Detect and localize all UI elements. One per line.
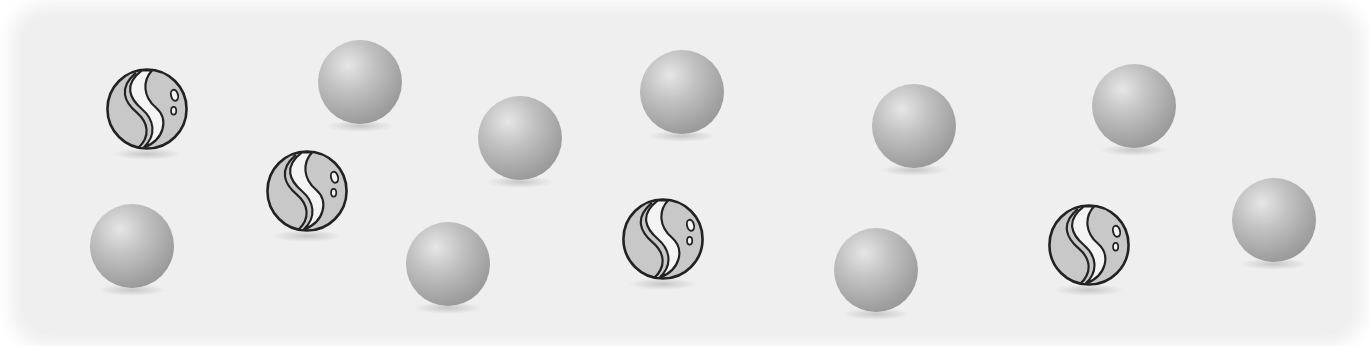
plain-ball — [318, 40, 402, 124]
marble-swirl-icon — [104, 66, 190, 152]
plain-ball — [872, 84, 956, 168]
plain-ball — [406, 222, 490, 306]
ball-body — [406, 222, 490, 306]
ball-body — [478, 96, 562, 180]
marble-swirl-icon — [264, 148, 350, 234]
swirled-marble — [264, 148, 350, 234]
marble-swirl-icon — [1046, 202, 1132, 288]
ball-body — [640, 50, 724, 134]
ball-body — [834, 228, 918, 312]
plain-ball — [1232, 178, 1316, 262]
plain-ball — [834, 228, 918, 312]
plain-ball — [478, 96, 562, 180]
ball-body — [1092, 64, 1176, 148]
ball-body — [90, 204, 174, 288]
plain-ball — [90, 204, 174, 288]
marble-swirl-icon — [620, 196, 706, 282]
swirled-marble — [620, 196, 706, 282]
ball-body — [318, 40, 402, 124]
swirled-marble — [1046, 202, 1132, 288]
ball-body — [872, 84, 956, 168]
plain-ball — [640, 50, 724, 134]
swirled-marble — [104, 66, 190, 152]
plain-ball — [1092, 64, 1176, 148]
ball-body — [1232, 178, 1316, 262]
